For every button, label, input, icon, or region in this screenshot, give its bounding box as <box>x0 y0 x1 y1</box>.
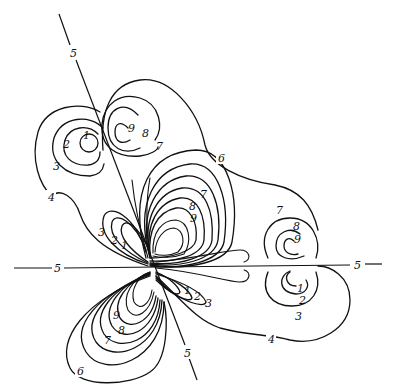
label-ur-8: 8 <box>142 127 149 140</box>
label-r-low-3: 3 <box>295 310 302 323</box>
label-ul-2: 2 <box>62 138 70 151</box>
label-nodal-left: 5 <box>54 262 61 275</box>
label-nodal-top: 5 <box>70 47 77 60</box>
label-ur-9: 9 <box>128 122 135 135</box>
right-contours <box>264 218 317 306</box>
label-r-up-9: 9 <box>294 233 301 246</box>
contour-labels: 5 5 5 5 1 2 3 4 9 8 7 6 7 8 9 3 2 1 1 2 … <box>46 46 364 378</box>
label-c-left-3: 3 <box>98 226 105 239</box>
label-ul-1: 1 <box>83 129 90 142</box>
contour-diagram: 5 5 5 5 1 2 3 4 9 8 7 6 7 8 9 3 2 1 1 2 … <box>0 0 393 392</box>
label-nodal-right: 5 <box>354 259 361 272</box>
label-ur-7: 7 <box>156 140 163 153</box>
label-c-up-7: 7 <box>200 188 207 201</box>
label-c-up-9: 9 <box>190 212 197 225</box>
label-r-up-8: 8 <box>293 220 300 233</box>
label-nodal-bottom: 5 <box>184 347 191 360</box>
label-ul-3: 3 <box>53 160 60 173</box>
label-c-right-3: 3 <box>205 297 212 310</box>
center-left-contours <box>52 178 150 266</box>
center-upper-contours <box>140 150 235 267</box>
label-c-right-1: 1 <box>184 284 191 297</box>
label-c-low-7: 7 <box>104 334 111 347</box>
label-bottom-4: 4 <box>267 333 275 346</box>
label-top-6: 6 <box>218 152 225 165</box>
label-c-low-6: 6 <box>77 365 84 378</box>
label-c-low-8: 8 <box>118 324 125 337</box>
label-c-right-2: 2 <box>193 290 201 303</box>
label-r-up-7: 7 <box>276 204 283 217</box>
label-ul-4: 4 <box>47 191 55 204</box>
label-r-low-2: 2 <box>298 294 306 307</box>
label-c-left-1: 1 <box>121 239 128 252</box>
label-c-left-2: 2 <box>110 234 118 247</box>
label-c-low-9: 9 <box>113 309 120 322</box>
